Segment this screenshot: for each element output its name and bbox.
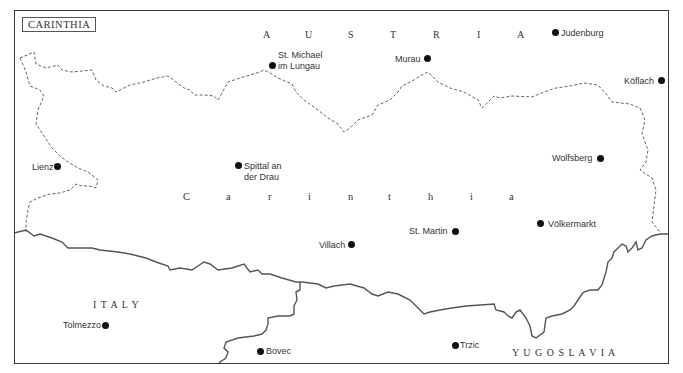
town-marker-st-martin: [452, 228, 459, 235]
country-label-italy: I T A L Y: [93, 299, 140, 310]
town-label-villach: Villach: [319, 240, 345, 250]
town-label-spittal: Spittal an: [244, 161, 282, 171]
country-label-austria-letter: I: [477, 29, 480, 40]
town-marker-bovec: [257, 348, 264, 355]
town-label-volkermarkt: Völkermarkt: [548, 219, 596, 229]
country-label-austria-letter: T: [390, 29, 396, 40]
region-label-letter: t: [388, 191, 391, 202]
town-marker-trzic: [452, 342, 459, 349]
town-marker-wolfsberg: [597, 155, 604, 162]
town-label-spittal-line2: der Drau: [244, 172, 279, 182]
country-label-austria-letter: R: [433, 29, 440, 40]
country-label-austria-letter: A: [517, 29, 524, 40]
town-label-bovec: Bovec: [266, 346, 291, 356]
town-label-st-michael-line2: im Lungau: [278, 61, 320, 71]
town-label-st-martin: St. Martin: [409, 226, 448, 236]
region-label-letter: a: [509, 191, 514, 202]
town-label-tolmezzo: Tolmezzo: [63, 320, 101, 330]
town-marker-st-michael: [269, 62, 276, 69]
carinthia-map: CARINTHIA A U S T R I A I T A L Y Y U G …: [0, 0, 683, 373]
region-label-letter: i: [470, 191, 473, 202]
map-title: CARINTHIA: [22, 17, 96, 32]
town-marker-villach: [348, 241, 355, 248]
region-label-letter: h: [428, 191, 433, 202]
town-marker-judenburg: [552, 29, 559, 36]
region-label-letter: n: [348, 191, 353, 202]
country-label-austria-letter: U: [305, 29, 312, 40]
country-label-yugoslavia: Y U G O S L A V I A: [512, 347, 616, 358]
region-label-letter: r: [268, 191, 272, 202]
map-frame: [14, 10, 669, 364]
town-label-judenburg: Judenburg: [561, 28, 604, 38]
town-label-lienz: Lienz: [32, 162, 54, 172]
town-marker-tolmezzo: [102, 322, 109, 329]
town-label-murau: Murau: [395, 54, 421, 64]
region-label-letter: i: [308, 191, 311, 202]
town-label-trzic: Trzic: [460, 340, 479, 350]
town-marker-volkermarkt: [537, 220, 544, 227]
region-label-letter: C: [183, 191, 190, 202]
town-marker-lienz: [54, 163, 61, 170]
town-marker-spittal: [235, 162, 242, 169]
region-label-letter: a: [226, 191, 231, 202]
town-marker-koflach: [658, 77, 665, 84]
town-label-koflach: Köflach: [624, 76, 654, 86]
town-label-st-michael: St. Michael: [278, 50, 323, 60]
town-marker-murau: [424, 55, 431, 62]
country-label-austria-letter: S: [348, 29, 354, 40]
country-label-austria-letter: A: [263, 29, 270, 40]
town-label-wolfsberg: Wolfsberg: [552, 153, 592, 163]
